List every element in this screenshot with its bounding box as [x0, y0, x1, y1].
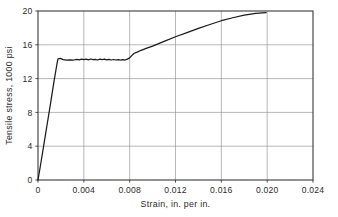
- stress-strain-chart: 00.0040.0080.0120.0160.0200.024048121620…: [0, 0, 338, 217]
- x-tick-labels: 00.0040.0080.0120.0160.0200.024: [36, 185, 325, 195]
- x-tick-label: 0.016: [210, 185, 233, 195]
- y-tick-label: 8: [28, 108, 33, 118]
- y-tick-label: 16: [23, 40, 33, 50]
- chart-canvas: 00.0040.0080.0120.0160.0200.024048121620…: [0, 0, 338, 217]
- y-axis-title: Tensile stress, 1000 psi: [4, 46, 14, 145]
- y-tick-label: 4: [28, 141, 33, 151]
- x-tick-label: 0.024: [302, 185, 325, 195]
- x-tick-label: 0.012: [164, 185, 187, 195]
- data-line: [38, 13, 266, 180]
- x-tick-label: 0: [36, 185, 41, 195]
- x-tick-label: 0.020: [256, 185, 279, 195]
- x-tick-label: 0.008: [118, 185, 141, 195]
- y-tick-label: 12: [23, 74, 33, 84]
- data-series-group: [38, 13, 266, 180]
- y-tick-labels: 048121620: [23, 6, 33, 185]
- y-tick-label: 20: [23, 6, 33, 16]
- y-tick-label: 0: [28, 175, 33, 185]
- x-tick-label: 0.004: [73, 185, 96, 195]
- x-axis-title: Strain, in. per in.: [141, 199, 211, 209]
